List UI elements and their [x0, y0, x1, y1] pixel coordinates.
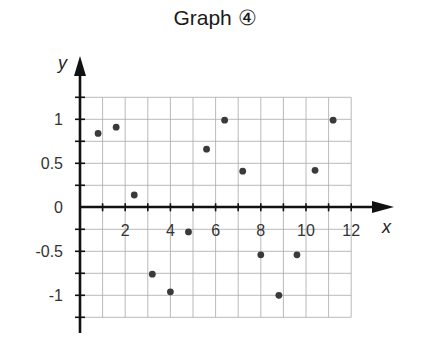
x-tick-labels: 24681012	[121, 222, 360, 239]
chart-title: Graph ④	[173, 6, 256, 29]
y-axis-label: y	[56, 53, 68, 73]
data-point	[221, 117, 228, 124]
scatter-chart: Graph ④ y x 24681012 10.50-0.5-1	[0, 0, 422, 353]
data-point	[294, 251, 301, 258]
data-point	[149, 271, 156, 278]
y-tick-label: 0.5	[41, 155, 63, 172]
data-point	[257, 251, 264, 258]
data-point	[312, 167, 319, 174]
x-tick-label: 4	[166, 222, 175, 239]
data-point	[131, 192, 138, 199]
data-point	[113, 124, 120, 131]
y-tick-labels: 10.50-0.5-1	[35, 111, 63, 304]
x-tick-label: 10	[297, 222, 315, 239]
y-tick-label: 1	[54, 111, 63, 128]
x-axis-label: x	[381, 217, 392, 237]
data-point	[203, 146, 210, 153]
x-tick-label: 8	[256, 222, 265, 239]
data-point	[167, 288, 174, 295]
data-point	[95, 130, 102, 137]
x-tick-label: 6	[211, 222, 220, 239]
data-point	[239, 168, 246, 175]
x-tick-label: 2	[121, 222, 130, 239]
data-point	[185, 229, 192, 236]
y-tick-label: -0.5	[35, 243, 63, 260]
y-axis-arrow-icon	[74, 56, 86, 76]
x-axis-arrow-icon	[372, 201, 394, 213]
x-tick-label: 12	[342, 222, 360, 239]
y-tick-label: -1	[49, 287, 63, 304]
y-tick-label: 0	[54, 199, 63, 216]
data-point	[275, 292, 282, 299]
axes: y x	[56, 53, 394, 333]
data-point	[330, 117, 337, 124]
